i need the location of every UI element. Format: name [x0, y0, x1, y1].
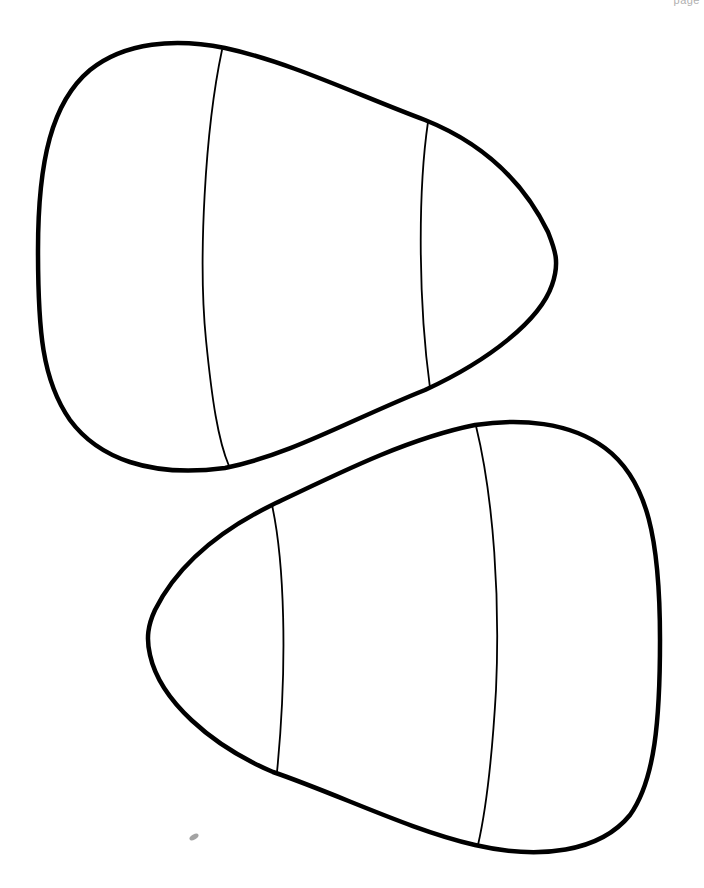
candy-corn-bottom-band-1	[272, 505, 283, 772]
candy-corn-top-outline	[38, 43, 556, 471]
smudge-mark	[188, 832, 199, 841]
candy-corn-bottom-band-2	[476, 426, 497, 845]
candy-corn-bottom-outline	[148, 422, 660, 852]
candy-corn-top-band-2	[421, 122, 430, 388]
candy-corn-top	[38, 43, 556, 471]
candy-corn-top-band-1	[203, 50, 229, 466]
coloring-canvas	[0, 0, 704, 888]
candy-corn-bottom	[148, 422, 660, 852]
